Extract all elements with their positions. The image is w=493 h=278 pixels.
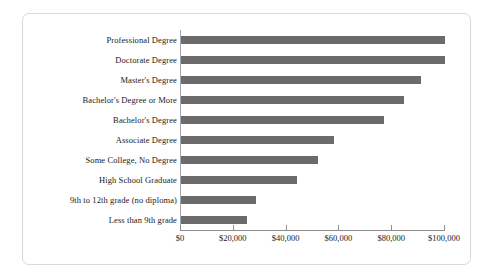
- bar-track: [181, 50, 447, 70]
- x-tick-mark: [180, 225, 181, 231]
- bar-category-label: Less than 9th grade: [17, 210, 177, 230]
- bar-row: Professional Degree: [23, 30, 472, 50]
- bar-track: [181, 30, 447, 50]
- bar-track: [181, 210, 447, 230]
- x-tick-label: $100,000: [409, 233, 479, 243]
- bar-category-label: Bachelor's Degree or More: [17, 90, 177, 110]
- bar-row: Associate Degree: [23, 130, 472, 150]
- chart-frame: Professional DegreeDoctorate DegreeMaste…: [22, 13, 471, 265]
- bar-row: Some College, No Degree: [23, 150, 472, 170]
- bar: [181, 76, 421, 84]
- plot-area: Professional DegreeDoctorate DegreeMaste…: [23, 14, 472, 266]
- bar-category-label: Associate Degree: [17, 130, 177, 150]
- bar: [181, 56, 445, 64]
- bar-row: Doctorate Degree: [23, 50, 472, 70]
- bar: [181, 36, 445, 44]
- x-tick-mark: [286, 225, 287, 231]
- bar-category-label: Doctorate Degree: [17, 50, 177, 70]
- bar: [181, 156, 318, 164]
- bar-category-label: High School Graduate: [17, 170, 177, 190]
- bar-track: [181, 130, 447, 150]
- bar-track: [181, 190, 447, 210]
- bar: [181, 196, 256, 204]
- bar-row: 9th to 12th grade (no diploma): [23, 190, 472, 210]
- bar-category-label: Some College, No Degree: [17, 150, 177, 170]
- bar-track: [181, 90, 447, 110]
- bar-row: Bachelor's Degree or More: [23, 90, 472, 110]
- bar-track: [181, 110, 447, 130]
- x-tick-mark: [338, 225, 339, 231]
- x-tick-mark: [233, 225, 234, 231]
- bar-track: [181, 170, 447, 190]
- bar-row: High School Graduate: [23, 170, 472, 190]
- bar: [181, 216, 247, 224]
- bar-category-label: Professional Degree: [17, 30, 177, 50]
- x-axis-line: [180, 230, 445, 231]
- bar: [181, 136, 334, 144]
- x-tick-mark: [444, 225, 445, 231]
- bar-track: [181, 150, 447, 170]
- bar-category-label: Bachelor's Degree: [17, 110, 177, 130]
- bar: [181, 96, 404, 104]
- bar: [181, 176, 297, 184]
- x-tick-mark: [391, 225, 392, 231]
- bar-row: Less than 9th grade: [23, 210, 472, 230]
- bar-category-label: Master's Degree: [17, 70, 177, 90]
- bar: [181, 116, 384, 124]
- bar-row: Master's Degree: [23, 70, 472, 90]
- chart-screenshot: Professional DegreeDoctorate DegreeMaste…: [0, 0, 493, 278]
- bar-track: [181, 70, 447, 90]
- bar-row: Bachelor's Degree: [23, 110, 472, 130]
- bar-category-label: 9th to 12th grade (no diploma): [17, 190, 177, 210]
